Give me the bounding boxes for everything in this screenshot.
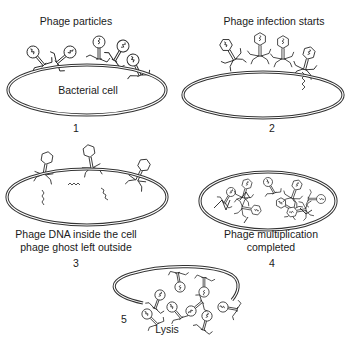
- phage-dna-strands: [42, 183, 108, 205]
- panel-3-caption-line1: Phage DNA inside the cell: [15, 228, 136, 240]
- panel-4-caption-line1: Phage multiplication: [224, 228, 318, 240]
- released-phages: [136, 268, 242, 335]
- panel-3: Phage DNA inside the cell phage ghost le…: [7, 143, 167, 269]
- panel-2-number: 2: [269, 122, 275, 134]
- attaching-phages: [212, 33, 321, 90]
- lysis-label: Lysis: [155, 323, 179, 335]
- panel-1-title: Phage particles: [40, 15, 112, 27]
- panel-1: Phage particles Bacterial cell 1: [8, 15, 166, 134]
- phage-particles: [19, 34, 151, 83]
- progeny-phages: [214, 174, 326, 223]
- panel-4: Phage multiplication completed 4: [200, 172, 336, 269]
- panel-2-title: Phage infection starts: [224, 15, 325, 27]
- panel-3-caption-line2: phage ghost left outside: [20, 241, 132, 253]
- phage-ghosts: [33, 143, 155, 191]
- panel-5-number: 5: [121, 313, 127, 325]
- panel-4-caption-line2: completed: [247, 241, 296, 253]
- panel-1-number: 1: [73, 122, 79, 134]
- panel-3-number: 3: [73, 257, 79, 269]
- panel-5: 5 Lysis: [114, 267, 241, 335]
- bacterial-cell-label: Bacterial cell: [58, 84, 118, 96]
- bacterial-cell-2: [183, 72, 343, 118]
- phage-lifecycle-diagram: Phage particles Bacterial cell 1 Phage i…: [0, 0, 350, 350]
- bacterial-cell-3: [7, 169, 167, 225]
- panel-4-number: 4: [269, 257, 275, 269]
- panel-2: Phage infection starts 2: [183, 15, 343, 134]
